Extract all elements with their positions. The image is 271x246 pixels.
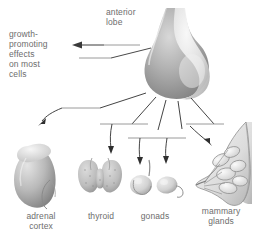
leader-testis (158, 100, 166, 130)
thyroid-right-lobe (101, 160, 122, 193)
ovary-highlight (160, 179, 168, 185)
ovary (155, 175, 183, 197)
fallopian-tube (176, 186, 183, 197)
adrenal-arrow-head (38, 118, 46, 126)
breast-arrow-head (204, 138, 212, 146)
label-gonads: gonads (127, 211, 183, 221)
posterior-highlight (179, 54, 205, 88)
label-mammary-glands: mammary glands (190, 206, 252, 226)
leader-adrenal (100, 93, 146, 108)
ovary-body (155, 175, 178, 195)
ovary-arrow-shaft (166, 138, 167, 158)
anatomy-figure: growth- promoting effects on most cells … (0, 0, 271, 246)
leader-ovary (178, 101, 182, 129)
mammary-gland (196, 122, 252, 205)
adrenal-gland (14, 144, 56, 209)
testis-arrow-shaft (139, 138, 140, 159)
thyroid-arrow-shaft (110, 124, 112, 148)
growth-connector (72, 42, 151, 59)
organ-connectors (38, 108, 224, 165)
label-anterior-lobe: anterior lobe (106, 7, 168, 27)
thyroid-isthmus (96, 169, 104, 189)
testis-arrow-head (137, 157, 143, 165)
label-thyroid: thyroid (74, 211, 128, 221)
thyroid-arrow-head (108, 146, 114, 154)
thyroid-gland (78, 158, 122, 193)
growth-leader (111, 48, 151, 58)
ovary-arrow-head (163, 156, 169, 164)
leader-thyroid (132, 97, 156, 124)
breast-arrow-shaft (190, 126, 207, 141)
testis-highlight (134, 178, 142, 184)
arrow-left-head (72, 42, 82, 49)
label-growth-effects: growth- promoting effects on most cells (9, 29, 71, 79)
spermatic-cord (149, 160, 150, 176)
leader-breast (191, 98, 214, 124)
thyroid-left-lobe (78, 160, 99, 193)
testis (130, 160, 152, 195)
label-adrenal-cortex: adrenal cortex (11, 211, 71, 231)
